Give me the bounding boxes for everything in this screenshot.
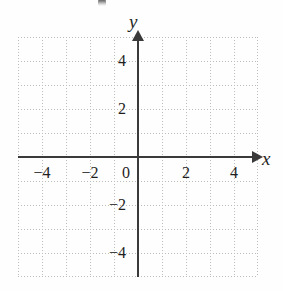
y-tick-label-pos4: 4 <box>104 53 126 69</box>
x-tick-label-zero: 0 <box>122 165 130 181</box>
y-tick-label-pos2: 2 <box>104 101 126 117</box>
scan-artifact-smudge <box>98 0 106 6</box>
x-tick-label-pos2: 2 <box>182 165 190 181</box>
x-tick-label-neg4: −4 <box>33 165 50 181</box>
x-tick-label-neg2: −2 <box>81 165 98 181</box>
plot-area <box>18 37 258 277</box>
x-axis-label: x <box>262 149 270 168</box>
y-tick-label-neg2: −2 <box>97 197 126 213</box>
y-axis-line <box>137 40 139 277</box>
y-axis-label: y <box>129 12 137 31</box>
coordinate-grid-figure: y x −4 −2 0 2 4 4 2 −2 −4 <box>0 0 283 291</box>
x-tick-label-pos4: 4 <box>230 165 238 181</box>
y-tick-label-neg4: −4 <box>97 245 126 261</box>
